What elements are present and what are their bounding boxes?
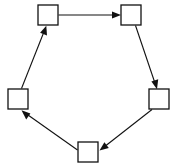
- directed-cycle-diagram: [0, 0, 174, 168]
- edge-left-to-top-left: [22, 26, 48, 89]
- arrow-head-icon: [151, 79, 158, 89]
- edge-bottom-to-left: [22, 110, 78, 150]
- arrow-head-icon: [22, 110, 31, 119]
- edge-right-to-bottom: [100, 110, 153, 151]
- arrow-head-icon: [40, 26, 47, 36]
- diagram-canvas: [0, 0, 174, 168]
- node-right[interactable]: [149, 89, 169, 109]
- edge-top-left-to-top-right: [59, 11, 122, 18]
- edge-line: [22, 33, 44, 89]
- edge-line: [28, 115, 78, 150]
- node-top-right[interactable]: [121, 5, 141, 25]
- arrow-head-icon: [100, 142, 109, 150]
- edge-line: [106, 110, 152, 146]
- node-left[interactable]: [8, 89, 28, 109]
- edge-top-right-to-right: [136, 26, 159, 90]
- arrow-head-icon: [112, 11, 121, 18]
- edge-line: [136, 26, 155, 83]
- node-top-left[interactable]: [38, 5, 58, 25]
- node-bottom[interactable]: [78, 142, 98, 162]
